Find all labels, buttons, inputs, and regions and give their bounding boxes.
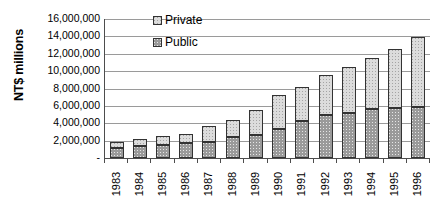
y-axis-title: NT$ millions <box>11 15 27 115</box>
y-axis-tick-label: 16,000,000 <box>30 13 100 24</box>
x-axis-tick-label: 1992 <box>319 164 331 204</box>
bar-segment-public[interactable] <box>319 115 333 158</box>
bar-segment-private[interactable] <box>226 120 240 137</box>
bar-segment-private[interactable] <box>179 134 193 144</box>
legend-label: Public <box>165 36 198 49</box>
bar-segment-private[interactable] <box>249 110 263 135</box>
x-axis-tick <box>429 159 430 163</box>
y-axis-tick-label: 14,000,000 <box>30 30 100 41</box>
y-axis-tick-label: 6,000,000 <box>30 100 100 111</box>
bar-group[interactable] <box>342 19 356 158</box>
x-axis-tick <box>359 159 360 163</box>
bar-segment-public[interactable] <box>249 135 263 158</box>
x-axis-tick-label: 1986 <box>179 164 191 204</box>
bar-group[interactable] <box>133 19 147 158</box>
bar-segment-private[interactable] <box>342 67 356 113</box>
bar-segment-private[interactable] <box>202 126 216 142</box>
x-axis-tick <box>313 159 314 163</box>
bar-segment-private[interactable] <box>411 37 425 107</box>
bar-segment-public[interactable] <box>179 143 193 158</box>
x-axis-tick-label: 1996 <box>411 164 423 204</box>
x-axis-tick <box>197 159 198 163</box>
bar-segment-private[interactable] <box>365 58 379 110</box>
x-axis-tick-labels: 1983198419851986198719881989199019911992… <box>104 164 430 213</box>
y-axis-tick-label: 8,000,000 <box>30 83 100 94</box>
bar-group[interactable] <box>388 19 402 158</box>
legend-entry[interactable]: Private <box>153 12 243 29</box>
legend-swatch-private <box>153 16 162 25</box>
bar-segment-private[interactable] <box>156 136 170 144</box>
y-axis-tick-label: 12,000,000 <box>30 48 100 59</box>
x-axis-tick-label: 1987 <box>202 164 214 204</box>
stacked-bar-chart: NT$ millions 16,000,00014,000,00012,000,… <box>0 0 437 213</box>
bar-segment-public[interactable] <box>388 108 402 158</box>
bar-segment-public[interactable] <box>411 107 425 158</box>
bar-segment-public[interactable] <box>272 129 286 158</box>
bar-group[interactable] <box>295 19 309 158</box>
bar-segment-private[interactable] <box>295 87 309 121</box>
x-axis-tick-label: 1990 <box>272 164 284 204</box>
x-axis-tick <box>267 159 268 163</box>
x-axis-tick-label: 1995 <box>388 164 400 204</box>
legend-label: Private <box>165 14 202 27</box>
x-axis-tick <box>174 159 175 163</box>
bar-group[interactable] <box>411 19 425 158</box>
bar-group[interactable] <box>319 19 333 158</box>
x-axis-tick-label: 1994 <box>365 164 377 204</box>
y-axis-tick-labels: 16,000,00014,000,00012,000,00010,000,000… <box>30 0 100 213</box>
y-axis-tick-label: 4,000,000 <box>30 117 100 128</box>
x-axis-tick-label: 1988 <box>226 164 238 204</box>
bar-segment-public[interactable] <box>156 145 170 158</box>
chart-legend: PrivatePublic <box>153 12 243 56</box>
bar-group[interactable] <box>110 19 124 158</box>
bar-segment-public[interactable] <box>342 113 356 158</box>
bar-segment-private[interactable] <box>319 75 333 115</box>
x-axis-tick <box>127 159 128 163</box>
x-axis-tick <box>243 159 244 163</box>
bar-segment-public[interactable] <box>226 137 240 158</box>
bar-segment-public[interactable] <box>295 121 309 158</box>
bar-segment-private[interactable] <box>272 95 286 129</box>
y-axis-tick-label: 10,000,000 <box>30 65 100 76</box>
y-axis-tick-label: 2,000,000 <box>30 135 100 146</box>
bar-group[interactable] <box>365 19 379 158</box>
x-axis-tick <box>104 159 105 163</box>
bar-segment-public[interactable] <box>133 146 147 158</box>
x-axis-tick-label: 1983 <box>110 164 122 204</box>
legend-swatch-public <box>153 38 162 47</box>
legend-entry[interactable]: Public <box>153 34 243 51</box>
bar-group[interactable] <box>249 19 263 158</box>
y-axis-tick-label: - <box>30 152 100 163</box>
x-axis-tick-label: 1984 <box>133 164 145 204</box>
x-axis-tick-label: 1985 <box>156 164 168 204</box>
bar-segment-public[interactable] <box>365 109 379 158</box>
bar-segment-public[interactable] <box>110 148 124 158</box>
bar-segment-private[interactable] <box>388 49 402 109</box>
x-axis-tick <box>406 159 407 163</box>
bar-group[interactable] <box>272 19 286 158</box>
x-axis-tick <box>220 159 221 163</box>
x-axis-tick <box>336 159 337 163</box>
bar-segment-private[interactable] <box>133 139 147 146</box>
x-axis-tick <box>290 159 291 163</box>
x-axis-tick <box>383 159 384 163</box>
bar-segment-public[interactable] <box>202 142 216 158</box>
bar-segment-private[interactable] <box>110 142 124 148</box>
x-axis-tick-label: 1989 <box>249 164 261 204</box>
x-axis-tick-label: 1993 <box>342 164 354 204</box>
x-axis-tick <box>150 159 151 163</box>
x-axis-tick-label: 1991 <box>295 164 307 204</box>
